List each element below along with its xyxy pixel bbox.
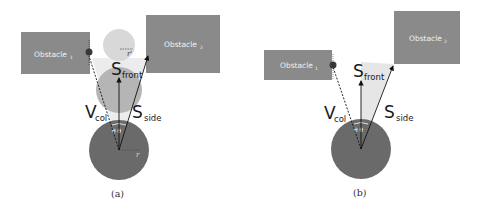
s-front-label: S bbox=[353, 61, 364, 81]
s-front-subscript: front bbox=[364, 72, 385, 82]
s-front-subscript: front bbox=[122, 70, 143, 80]
obstacle-1-label: Obstacle bbox=[280, 61, 313, 70]
diagram-b: Obstacle 1 Obstacle 2 θ θ S front V col … bbox=[240, 0, 479, 212]
obstacle-2-subscript: 2 bbox=[444, 39, 447, 44]
v-col-subscript: col bbox=[334, 114, 346, 124]
s-side-subscript: side bbox=[144, 113, 161, 123]
obstacle-2-subscript: 2 bbox=[200, 45, 203, 50]
panel-a: r' Obstacle 1 Obstacle 2 r θ θ S front V… bbox=[0, 0, 240, 212]
obstacle-2-label: Obstacle bbox=[164, 40, 197, 49]
s-front-label: S bbox=[111, 59, 122, 79]
obstacle-2-label: Obstacle bbox=[409, 34, 442, 43]
s-side-subscript: side bbox=[396, 113, 413, 123]
obstacle-1-subscript: 1 bbox=[70, 55, 73, 60]
ghost-radius-label: r' bbox=[127, 50, 132, 58]
panel-b: Obstacle 1 Obstacle 2 θ θ S front V col … bbox=[240, 0, 479, 212]
diagram-a: r' Obstacle 1 Obstacle 2 r θ θ S front V… bbox=[0, 0, 240, 212]
s-side-label: S bbox=[132, 102, 143, 122]
v-col-subscript: col bbox=[95, 113, 107, 123]
caption-b: (b) bbox=[353, 187, 367, 198]
s-side-label: S bbox=[384, 102, 395, 122]
caption-a: (a) bbox=[111, 188, 124, 199]
obstacle-1-label: Obstacle bbox=[34, 50, 67, 59]
obstacle-1-subscript: 1 bbox=[315, 66, 318, 71]
